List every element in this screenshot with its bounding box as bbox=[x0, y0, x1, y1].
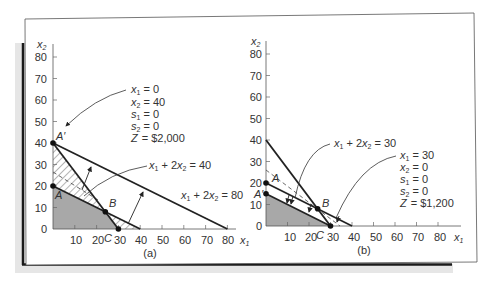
svg-text:40: 40 bbox=[250, 134, 262, 146]
svg-text:20: 20 bbox=[92, 234, 104, 246]
svg-text:30: 30 bbox=[114, 234, 126, 246]
svg-text:30: 30 bbox=[35, 159, 47, 171]
svg-text:80: 80 bbox=[434, 231, 446, 243]
svg-text:40: 40 bbox=[348, 231, 360, 243]
point-a-a bbox=[50, 183, 56, 189]
svg-text:50: 50 bbox=[250, 113, 262, 125]
point-a-b bbox=[263, 180, 269, 186]
svg-text:60: 60 bbox=[179, 234, 191, 246]
svg-text:0: 0 bbox=[41, 223, 47, 235]
label-c-a: C bbox=[104, 232, 112, 244]
line-label-40-a: x1 + 2x2 = 40 bbox=[148, 159, 211, 172]
lp-sensitivity-figure: 80 70 60 50 40 30 20 10 0 10 20 30 40 50 bbox=[0, 0, 493, 285]
svg-text:70: 70 bbox=[35, 73, 47, 85]
svg-text:30: 30 bbox=[327, 231, 339, 243]
point-c-a bbox=[116, 226, 122, 232]
svg-text:60: 60 bbox=[35, 94, 47, 106]
point-b-a bbox=[103, 209, 109, 215]
svg-text:30: 30 bbox=[250, 156, 262, 168]
svg-text:60: 60 bbox=[250, 91, 262, 103]
svg-text:40: 40 bbox=[135, 234, 147, 246]
svg-text:70: 70 bbox=[412, 231, 424, 243]
svg-text:50: 50 bbox=[157, 234, 169, 246]
svg-text:x1= 0: x1= 0 bbox=[130, 83, 159, 96]
point-c-b bbox=[328, 223, 334, 229]
caption-a: (a) bbox=[143, 247, 156, 259]
svg-text:10: 10 bbox=[284, 231, 296, 243]
point-b-b bbox=[315, 206, 321, 212]
svg-text:70: 70 bbox=[250, 70, 262, 82]
svg-text:80: 80 bbox=[35, 51, 47, 63]
svg-text:20: 20 bbox=[35, 180, 47, 192]
label-b-a: B bbox=[109, 197, 116, 209]
label-c-b: C bbox=[316, 229, 324, 241]
svg-text:0: 0 bbox=[256, 220, 262, 232]
line-label-80-a: x1 + 2x2 = 80 bbox=[180, 189, 243, 202]
label-a-b: A bbox=[271, 172, 279, 184]
caption-b: (b) bbox=[357, 244, 370, 256]
point-a-prime-b bbox=[263, 191, 269, 197]
line-label-30-b: x1 + 2x2 = 30 bbox=[333, 137, 396, 150]
svg-text:40: 40 bbox=[35, 137, 47, 149]
label-a-prime-b: A′ bbox=[253, 188, 264, 200]
y-tick-labels-b: 80 70 60 50 40 30 20 10 0 bbox=[250, 48, 262, 232]
svg-text:50: 50 bbox=[35, 116, 47, 128]
svg-text:10: 10 bbox=[35, 202, 47, 214]
svg-text:60: 60 bbox=[391, 231, 403, 243]
point-a-prime-a bbox=[50, 140, 56, 146]
label-a-prime-a: A′ bbox=[55, 130, 66, 142]
svg-text:80: 80 bbox=[222, 234, 234, 246]
svg-text:10: 10 bbox=[250, 199, 262, 211]
svg-text:50: 50 bbox=[370, 231, 382, 243]
svg-text:70: 70 bbox=[201, 234, 213, 246]
svg-text:10: 10 bbox=[70, 234, 82, 246]
y-tick-labels-a: 80 70 60 50 40 30 20 10 0 bbox=[35, 51, 47, 235]
label-a-a: A bbox=[54, 189, 62, 201]
svg-text:80: 80 bbox=[250, 48, 262, 60]
label-b-b: B bbox=[322, 197, 329, 209]
